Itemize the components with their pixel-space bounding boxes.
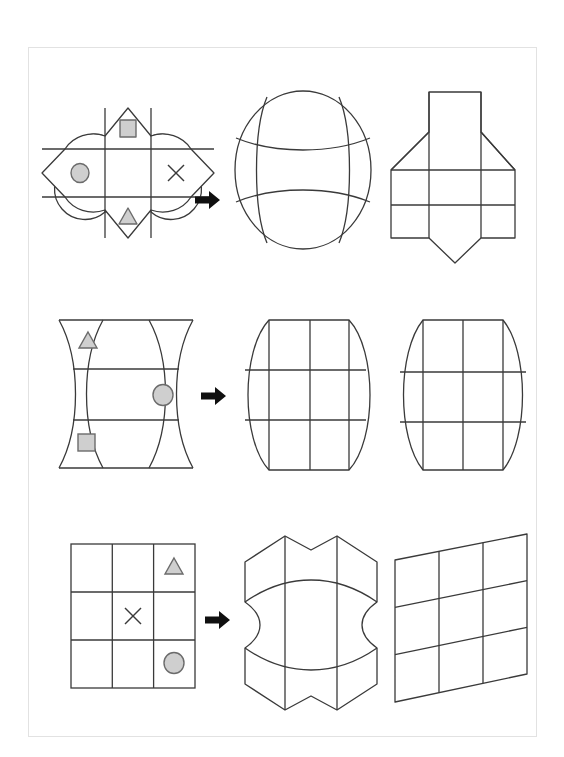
row1-option-b-figure[interactable]	[377, 80, 537, 265]
row2-net-figure[interactable]	[51, 310, 221, 480]
puzzle-row-2	[29, 296, 538, 506]
row2-option-a-figure[interactable]	[229, 310, 389, 485]
puzzle-row-1	[29, 80, 538, 290]
symbol-square	[120, 120, 136, 137]
row3-option-a-figure[interactable]	[233, 524, 393, 709]
symbol-circle	[153, 385, 173, 406]
row1-option-a-figure[interactable]	[225, 80, 385, 260]
row3-arrow-icon	[205, 610, 231, 630]
symbol-square	[78, 434, 95, 451]
row3-net-figure[interactable]	[57, 532, 217, 707]
row1-net-figure[interactable]	[43, 84, 213, 264]
symbol-circle	[164, 653, 184, 674]
row2-arrow-icon	[201, 386, 227, 406]
row1-arrow-icon	[195, 190, 221, 210]
row3-option-b-figure[interactable]	[385, 524, 550, 709]
row2-option-b-figure[interactable]	[387, 310, 547, 485]
symbol-circle	[71, 164, 89, 183]
puzzle-row-3	[29, 520, 538, 730]
worksheet-page	[0, 0, 564, 757]
paper-sheet	[28, 47, 537, 737]
